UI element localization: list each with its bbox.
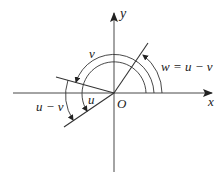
angle-u-label: u <box>88 92 95 107</box>
angle-difference-diagram: y x O v u u − v w = u − v <box>0 0 223 184</box>
arc-v <box>76 54 154 93</box>
y-axis-label: y <box>118 6 127 21</box>
angle-w-label: w = u − v <box>161 59 213 74</box>
x-axis-label: x <box>207 94 214 109</box>
angle-v-label: v <box>89 46 95 61</box>
arc-u-minus-v <box>66 80 73 120</box>
angle-u-minus-v-label: u − v <box>36 99 64 114</box>
ray-w <box>114 43 148 93</box>
origin-label: O <box>117 96 127 111</box>
